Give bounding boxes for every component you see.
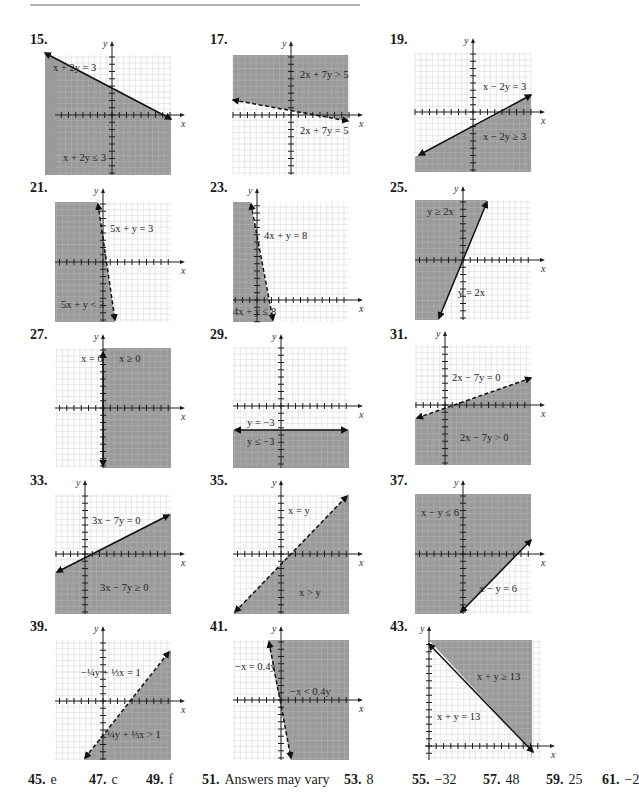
equation-label: 5x + y = 3 — [110, 223, 153, 234]
answer-number: 49. — [146, 772, 164, 787]
inequality-graph: xy2x + 7y > 52x + 7y = 5 — [233, 55, 373, 195]
equation-label: x + 2y = 3 — [53, 62, 96, 73]
x-axis-label: x — [358, 118, 364, 129]
y-axis-label: y — [453, 477, 459, 488]
problem-number: 19. — [390, 32, 408, 48]
y-axis-label: y — [463, 35, 469, 46]
equation-label: x − 2y ≥ 3 — [483, 131, 526, 142]
equation-label: y ≥ 2x — [427, 206, 455, 217]
equation-label: −¼y + ⅓x = 1 — [81, 667, 141, 678]
y-axis-label: y — [419, 623, 425, 634]
y-axis-label: y — [75, 477, 81, 488]
answer-number: 47. — [89, 772, 107, 787]
inequality-graph: xy4x + y = 84x + y ≤ 8 — [233, 202, 373, 342]
equation-label: 2x + 7y > 5 — [300, 69, 349, 80]
answer-number: 53. — [344, 772, 362, 787]
answer-value: 48 — [506, 772, 520, 787]
equation-label: 5x + y < 3 — [61, 299, 104, 310]
problem-number: 17. — [210, 32, 228, 48]
answer-number: 45. — [28, 772, 46, 787]
inequality-graph: xyx + y ≥ 13x + y = 13 — [425, 640, 565, 780]
answer-item: 53.8 — [344, 772, 374, 788]
problem-number: 41. — [210, 619, 228, 635]
equation-label: y ≤ −3 — [247, 436, 274, 447]
top-divider — [30, 4, 360, 6]
equation-label: x = 0 — [81, 353, 103, 364]
x-axis-label: x — [358, 703, 364, 714]
answer-item: 49.f — [146, 772, 173, 788]
problem-number: 39. — [30, 619, 48, 635]
equation-label: x + y = 13 — [437, 711, 480, 722]
answer-value: f — [169, 772, 174, 787]
equation-label: 4x + y ≤ 8 — [233, 306, 276, 317]
answer-value: −2 — [625, 772, 639, 787]
x-axis-label: x — [358, 303, 364, 314]
problem-number: 23. — [210, 180, 228, 196]
inequality-graph: xyy = −3y ≤ −3 — [233, 348, 373, 488]
y-axis-label: y — [435, 328, 441, 339]
answer-value: 8 — [367, 772, 374, 787]
answer-number: 59. — [546, 772, 564, 787]
x-axis-label: x — [540, 263, 546, 274]
y-axis-label: y — [281, 38, 287, 49]
y-axis-label: y — [271, 477, 277, 488]
answer-value: e — [51, 772, 57, 787]
problem-number: 27. — [30, 327, 48, 343]
x-axis-label: x — [358, 409, 364, 420]
x-axis-label: x — [540, 115, 546, 126]
inequality-graph: xy−x = 0.4y−x < 0.4y — [233, 640, 373, 780]
problem-number: 37. — [390, 473, 408, 489]
inequality-graph: xyx − 2y = 3x − 2y ≥ 3 — [415, 52, 555, 192]
y-axis-label: y — [93, 331, 99, 342]
equation-label: x + 2y ≤ 3 — [63, 152, 106, 163]
x-axis-label: x — [180, 704, 186, 715]
x-axis-label: x — [180, 557, 186, 568]
x-axis-label: x — [540, 408, 546, 419]
x-axis-label: x — [180, 118, 186, 129]
answer-item: 47.c — [89, 772, 118, 788]
problem-number: 29. — [210, 327, 228, 343]
answer-item: 51.Answers may vary — [202, 772, 329, 788]
x-axis-label: x — [550, 749, 556, 760]
equation-label: 4x + y = 8 — [264, 230, 307, 241]
equation-label: 2x + 7y = 5 — [300, 125, 349, 136]
x-axis-label: x — [180, 411, 186, 422]
answer-number: 51. — [202, 772, 220, 787]
equation-label: x = y — [288, 505, 310, 516]
inequality-graph: xy3x − 7y = 03x − 7y ≥ 0 — [55, 494, 195, 634]
equation-label: −x = 0.4y — [235, 661, 276, 672]
equation-label: y = 2x — [458, 287, 486, 298]
equation-label: x ≥ 0 — [119, 353, 141, 364]
inequality-graph: xy5x + y = 35x + y < 3 — [55, 202, 195, 342]
answer-value: Answers may vary — [225, 772, 330, 787]
answer-item: 59.25 — [546, 772, 583, 788]
x-axis-label: x — [358, 557, 364, 568]
answer-value: 25 — [569, 772, 583, 787]
problem-number: 25. — [390, 180, 408, 196]
answer-number: 57. — [483, 772, 501, 787]
equation-label: 2x − 7y = 0 — [452, 372, 501, 383]
inequality-graph: xyx + 2y = 3x + 2y ≤ 3 — [55, 55, 195, 195]
answer-number: 61. — [602, 772, 620, 787]
y-axis-label: y — [102, 38, 108, 49]
inequality-graph: xy−¼y + ⅓x = 1−¼y + ⅓x > 1 — [55, 640, 195, 780]
equation-label: −¼y + ⅓x > 1 — [101, 729, 161, 740]
problem-number: 35. — [210, 473, 228, 489]
inequality-graph: xyy ≥ 2xy = 2x — [415, 200, 555, 340]
inequality-graph: xyx = 0x ≥ 0 — [55, 348, 195, 488]
equation-label: x + y ≥ 13 — [477, 671, 520, 682]
answer-value: −32 — [435, 772, 457, 787]
equation-label: −x < 0.4y — [290, 686, 331, 697]
y-axis-label: y — [93, 623, 99, 634]
x-axis-label: x — [540, 557, 546, 568]
y-axis-label: y — [271, 623, 277, 634]
equation-label: 3x − 7y = 0 — [92, 515, 141, 526]
answer-value: c — [112, 772, 118, 787]
problem-number: 31. — [390, 327, 408, 343]
equation-label: 2x − 7y > 0 — [460, 432, 509, 443]
y-axis-label: y — [93, 185, 99, 196]
y-axis-label: y — [453, 183, 459, 194]
inequality-graph: xyx = yx > y — [233, 494, 373, 634]
inequality-graph: xy2x − 7y = 02x − 7y > 0 — [415, 345, 555, 485]
problem-number: 33. — [30, 473, 48, 489]
